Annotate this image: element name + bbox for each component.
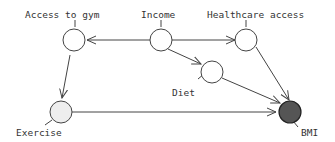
node-income (150, 29, 172, 51)
node-exercise (50, 101, 72, 123)
node-bmi (279, 101, 301, 123)
node-diet (201, 61, 223, 83)
label-bmi: BMI (301, 127, 318, 138)
edge-healthcare-access-to-bmi (256, 47, 289, 100)
edge-diet-to-bmi (222, 78, 280, 103)
causal-diagram: Access to gym Income Healthcare access D… (0, 0, 335, 142)
label-access-to-gym: Access to gym (25, 9, 99, 20)
label-diet: Diet (172, 87, 195, 98)
node-healthcare-access (235, 29, 257, 51)
node-access-to-gym (63, 29, 85, 51)
tick-exercise (45, 120, 52, 125)
edge-access-to-gym-to-exercise (62, 55, 70, 98)
label-income: Income (141, 9, 175, 20)
label-healthcare-access: Healthcare access (207, 9, 304, 20)
label-exercise: Exercise (16, 127, 62, 138)
diagram-canvas (0, 0, 335, 142)
edge-income-to-diet (168, 49, 201, 64)
